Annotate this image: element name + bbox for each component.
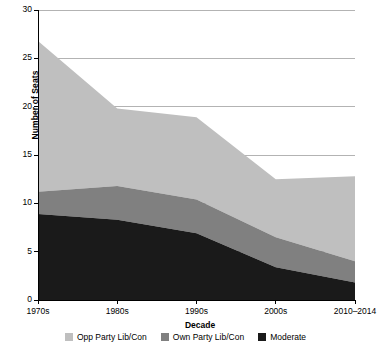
y-tick-label: 20 <box>10 101 32 111</box>
x-tick-label: 1990s <box>162 306 232 316</box>
y-tick-label: 25 <box>10 52 32 62</box>
y-tick-label: 0 <box>10 294 32 304</box>
x-axis-title: Decade <box>50 320 350 330</box>
legend-swatch-icon <box>65 333 73 341</box>
y-tick-label: 30 <box>10 4 32 14</box>
legend-item: Opp Party Lib/Con <box>65 332 147 342</box>
x-tick-label: 1980s <box>82 306 152 316</box>
legend-label: Opp Party Lib/Con <box>77 332 147 342</box>
y-tick-label: 15 <box>10 149 32 159</box>
x-tick-label: 2010–2014 <box>320 306 381 316</box>
chart-legend: Opp Party Lib/ConOwn Party Lib/ConModera… <box>0 332 371 342</box>
legend-label: Own Party Lib/Con <box>173 332 244 342</box>
x-tick-label: 1970s <box>3 306 73 316</box>
legend-swatch-icon <box>258 333 266 341</box>
legend-item: Own Party Lib/Con <box>161 332 244 342</box>
y-tick-label: 5 <box>10 246 32 256</box>
y-tick-label: 10 <box>10 197 32 207</box>
x-tick-label: 2000s <box>241 306 311 316</box>
legend-swatch-icon <box>161 333 169 341</box>
legend-item: Moderate <box>258 332 306 342</box>
legend-label: Moderate <box>270 332 306 342</box>
